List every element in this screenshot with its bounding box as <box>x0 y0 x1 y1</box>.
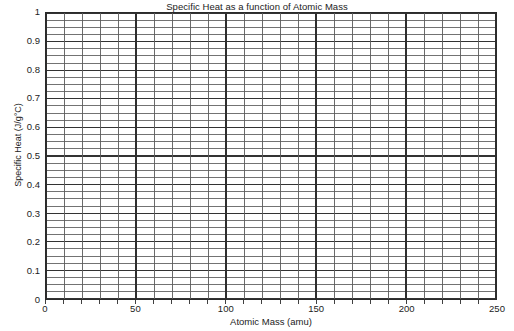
y-tick-label: 0.1 <box>0 265 40 276</box>
y-tick-label: 0.2 <box>0 236 40 247</box>
y-axis-title: Specific Heat (J/g°C) <box>13 65 23 225</box>
chart-figure: Specific Heat as a function of Atomic Ma… <box>0 0 514 331</box>
grid-lines <box>46 13 496 299</box>
x-axis-tick-marks <box>45 300 497 305</box>
chart-title: Specific Heat as a function of Atomic Ma… <box>0 1 514 12</box>
plot-area <box>45 12 497 300</box>
x-axis-title: Atomic Mass (amu) <box>45 316 497 327</box>
y-tick-label: 0 <box>0 294 40 305</box>
y-tick-label: 0.9 <box>0 35 40 46</box>
